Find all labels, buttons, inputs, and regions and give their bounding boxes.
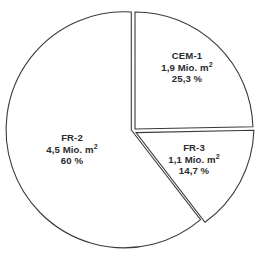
pie-label-fr3-title: FR-3 bbox=[155, 142, 233, 154]
pie-chart-graphic bbox=[0, 0, 272, 261]
pie-label-cem1: CEM-1 1,9 Mio. m2 25,3 % bbox=[148, 50, 226, 85]
pie-label-fr3-percent: 14,7 % bbox=[155, 165, 233, 177]
pie-label-cem1-area: 1,9 Mio. m2 bbox=[148, 62, 226, 74]
pie-label-fr2-percent: 60 % bbox=[33, 155, 111, 167]
pie-label-fr3: FR-3 1,1 Mio. m2 14,7 % bbox=[155, 142, 233, 177]
pie-label-cem1-title: CEM-1 bbox=[148, 50, 226, 62]
pie-label-fr3-area: 1,1 Mio. m2 bbox=[155, 154, 233, 166]
pie-label-fr2-area: 4,5 Mio. m2 bbox=[33, 144, 111, 156]
pie-chart-figure: CEM-1 1,9 Mio. m2 25,3 % FR-2 4,5 Mio. m… bbox=[0, 0, 272, 261]
pie-label-fr2: FR-2 4,5 Mio. m2 60 % bbox=[33, 132, 111, 167]
pie-label-fr2-title: FR-2 bbox=[33, 132, 111, 144]
pie-label-cem1-percent: 25,3 % bbox=[148, 73, 226, 85]
